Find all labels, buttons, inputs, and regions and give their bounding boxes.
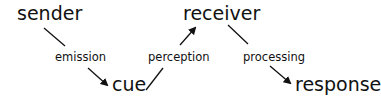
edge-label-perception: perception xyxy=(148,52,210,64)
edge-receiver-processing-line xyxy=(228,25,248,44)
node-cue: cue xyxy=(112,75,146,94)
edge-cue-perception-line xyxy=(146,68,163,90)
edge-perception-receiver-arrow xyxy=(180,28,195,45)
edge-processing-response-arrow xyxy=(270,66,290,83)
node-receiver: receiver xyxy=(183,4,260,23)
edge-emission-cue-arrow xyxy=(88,68,107,85)
node-sender: sender xyxy=(17,4,82,23)
edge-label-processing: processing xyxy=(243,52,305,64)
edge-sender-emission-line xyxy=(44,28,65,46)
edge-label-emission: emission xyxy=(55,52,106,64)
node-response: response xyxy=(295,75,381,94)
